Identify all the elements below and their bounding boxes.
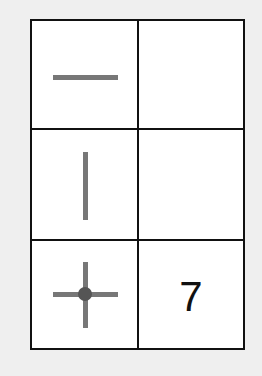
cell-number: 7 xyxy=(139,276,243,318)
vertical-line-icon xyxy=(83,152,88,220)
cell-r2-c0 xyxy=(32,241,137,348)
cell-r0-c1 xyxy=(139,21,243,128)
cell-r1-c1 xyxy=(139,130,243,239)
cell-r1-c0 xyxy=(32,130,137,239)
center-dot xyxy=(78,287,92,301)
symbol-grid: 7 xyxy=(30,19,245,350)
cell-r0-c0 xyxy=(32,21,137,128)
horizontal-line-icon xyxy=(53,75,118,80)
cell-r2-c1: 7 xyxy=(139,241,243,348)
